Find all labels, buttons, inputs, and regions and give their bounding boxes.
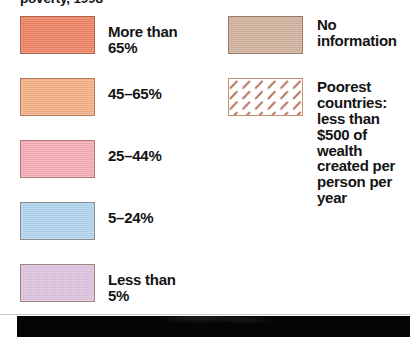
legend-label-25-44: 25–44% bbox=[108, 140, 162, 164]
legend-label-45-65: 45–65% bbox=[108, 78, 162, 102]
swatch-poorest-countries bbox=[228, 78, 303, 116]
diagonal-hatch-icon bbox=[229, 79, 302, 115]
legend-row-poorest-countries: Poorest countries: less than $500 of wea… bbox=[228, 78, 395, 206]
legend-row-more-than-65: More than 65% bbox=[20, 16, 200, 56]
legend-row-less-than-5: Less than 5% bbox=[20, 264, 200, 304]
swatch-45-65 bbox=[20, 78, 95, 116]
swatch-5-24 bbox=[20, 202, 95, 240]
legend-row-25-44: 25–44% bbox=[20, 140, 162, 178]
swatch-no-information bbox=[228, 16, 303, 54]
legend-label-5-24: 5–24% bbox=[108, 202, 153, 226]
swatch-less-than-5 bbox=[20, 264, 95, 302]
legend-label-no-information: No information bbox=[317, 16, 397, 49]
legend-label-poorest-countries: Poorest countries: less than $500 of wea… bbox=[317, 78, 395, 206]
legend-row-5-24: 5–24% bbox=[20, 202, 153, 240]
legend-title: poverty, 1998 bbox=[20, 0, 103, 6]
swatch-25-44 bbox=[20, 140, 95, 178]
legend-row-45-65: 45–65% bbox=[20, 78, 162, 116]
legend-label-less-than-5: Less than 5% bbox=[108, 264, 200, 304]
legend-row-no-information: No information bbox=[228, 16, 397, 54]
footer-black-band bbox=[17, 316, 410, 337]
swatch-more-than-65 bbox=[20, 16, 95, 54]
legend-label-more-than-65: More than 65% bbox=[108, 16, 200, 56]
footer-divider bbox=[0, 314, 410, 315]
